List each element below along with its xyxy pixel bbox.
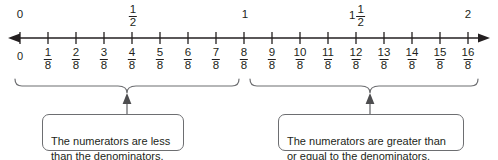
bottom-label-0-text: 0 — [17, 50, 23, 62]
bottom-label-4-8: 4 8 — [128, 47, 136, 71]
fraction: 13 8 — [377, 47, 392, 71]
fraction-numerator: 5 — [156, 47, 164, 59]
bottom-label-15-8: 15 8 — [433, 47, 448, 71]
fraction-denominator: 8 — [296, 59, 304, 72]
fraction-numerator: 15 — [433, 47, 448, 59]
fraction-numerator: 12 — [349, 47, 364, 59]
bottom-label-2-8: 2 8 — [72, 47, 80, 71]
fraction-denominator: 8 — [44, 59, 52, 72]
bottom-label-16-8: 16 8 — [461, 47, 476, 71]
fraction-numerator: 14 — [405, 47, 420, 59]
callout-right-text: The numerators are greater than or equal… — [287, 135, 446, 160]
fraction-numerator: 8 — [240, 47, 248, 59]
fraction: 16 8 — [461, 47, 476, 71]
fraction-denominator: 8 — [324, 59, 332, 72]
fraction-denominator: 8 — [72, 59, 80, 72]
callout-right: The numerators are greater than or equal… — [278, 114, 464, 151]
fraction: 12 8 — [349, 47, 364, 71]
callout-right-arrowhead-icon — [366, 93, 375, 104]
fraction-denominator: 8 — [352, 59, 360, 72]
fraction-denominator: 8 — [408, 59, 416, 72]
bottom-label-8-8: 8 8 — [240, 47, 248, 71]
fraction-denominator: 8 — [436, 59, 444, 72]
fraction-denominator: 8 — [128, 59, 136, 72]
bottom-label-5-8: 5 8 — [156, 47, 164, 71]
right-arrowhead-icon — [478, 33, 490, 42]
callout-left: The numerators are less than the denomin… — [42, 114, 184, 151]
bottom-label-10-8: 10 8 — [293, 47, 308, 71]
fraction: 14 8 — [405, 47, 420, 71]
bottom-label-12-8: 12 8 — [349, 47, 364, 71]
fraction-denominator: 8 — [156, 59, 164, 72]
fraction-numerator: 16 — [461, 47, 476, 59]
number-line-figure: 0 1 2 1 1 1 2 2 — [0, 0, 498, 160]
bottom-label-11-8: 11 8 — [321, 47, 335, 71]
fraction-numerator: 13 — [377, 47, 392, 59]
bottom-label-7-8: 7 8 — [212, 47, 220, 71]
fraction: 8 8 — [240, 47, 248, 71]
fraction-denominator: 8 — [268, 59, 276, 72]
fraction: 6 8 — [184, 47, 192, 71]
fraction: 7 8 — [212, 47, 220, 71]
fraction-numerator: 9 — [268, 47, 276, 59]
fraction-numerator: 10 — [293, 47, 308, 59]
fraction-numerator: 4 — [128, 47, 136, 59]
fraction: 5 8 — [156, 47, 164, 71]
fraction: 2 8 — [72, 47, 80, 71]
fraction: 10 8 — [293, 47, 308, 71]
fraction-numerator: 1 — [44, 47, 52, 59]
callout-left-arrowhead-icon — [123, 93, 132, 104]
callout-left-text: The numerators are less than the denomin… — [51, 135, 170, 160]
fraction: 11 8 — [321, 47, 335, 71]
fraction: 9 8 — [268, 47, 276, 71]
left-arrowhead-icon — [8, 33, 20, 42]
fraction-numerator: 6 — [184, 47, 192, 59]
brace-right — [250, 79, 478, 93]
bottom-label-6-8: 6 8 — [184, 47, 192, 71]
fraction-denominator: 8 — [212, 59, 220, 72]
fraction: 4 8 — [128, 47, 136, 71]
fraction-numerator: 11 — [321, 47, 335, 59]
fraction-numerator: 2 — [72, 47, 80, 59]
bottom-label-13-8: 13 8 — [377, 47, 392, 71]
fraction-numerator: 7 — [212, 47, 220, 59]
bottom-label-1-8: 1 8 — [44, 47, 52, 71]
bottom-label-3-8: 3 8 — [100, 47, 108, 71]
brace-left — [15, 79, 239, 93]
fraction: 15 8 — [433, 47, 448, 71]
bottom-label-9-8: 9 8 — [268, 47, 276, 71]
bottom-label-14-8: 14 8 — [405, 47, 420, 71]
fraction-denominator: 8 — [464, 59, 472, 72]
fraction-denominator: 8 — [240, 59, 248, 72]
fraction: 3 8 — [100, 47, 108, 71]
bottom-label-0: 0 — [17, 51, 23, 62]
fraction: 1 8 — [44, 47, 52, 71]
fraction-denominator: 8 — [184, 59, 192, 72]
fraction-denominator: 8 — [100, 59, 108, 72]
fraction-numerator: 3 — [100, 47, 108, 59]
fraction-denominator: 8 — [380, 59, 388, 72]
